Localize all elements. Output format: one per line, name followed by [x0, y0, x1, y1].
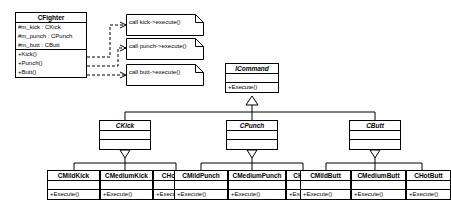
class-cbutt-operations	[350, 140, 400, 149]
class-cfighter-attribute: #m_kick : CKick	[16, 23, 86, 32]
class-icommand-operation: +Execute()	[226, 83, 278, 92]
class-cmediumpunch-attributes	[229, 181, 285, 190]
class-cpunch[interactable]: CPunch	[226, 120, 278, 150]
class-cmildbutt[interactable]: CMildButt +Execute()	[300, 170, 351, 200]
class-chotbutt-operation: +Execute()	[407, 190, 450, 199]
class-chotbutt-name: CHotButt	[407, 171, 450, 181]
class-cmediumpunch-operation: +Execute()	[229, 190, 285, 199]
class-cmediumbutt-name: CMediumButt	[352, 171, 405, 181]
class-cmildbutt-attributes	[301, 181, 350, 190]
class-cpunch-attributes	[227, 131, 277, 140]
class-cfighter-attribute: #m_punch : CPunch	[16, 32, 86, 41]
note-call-kick-text: call kick->execute()	[126, 14, 204, 27]
class-cmildkick[interactable]: CMildKick +Execute()	[47, 170, 100, 200]
uml-class-diagram: CFighter #m_kick : CKick #m_punch : CPun…	[0, 0, 451, 211]
class-cfighter-operation: +Kick()	[16, 50, 86, 59]
class-cmildbutt-operation: +Execute()	[301, 190, 350, 199]
class-icommand[interactable]: ICommand +Execute()	[225, 63, 279, 93]
class-chotbutt-attributes	[407, 181, 450, 190]
generalization-punch	[201, 150, 303, 170]
class-icommand-attributes	[226, 74, 278, 83]
class-cbutt[interactable]: CButt	[349, 120, 401, 150]
class-ckick[interactable]: CKick	[99, 120, 151, 150]
generalization-butt	[326, 150, 422, 170]
class-cfighter-name: CFighter	[16, 13, 86, 23]
class-cmediumkick-operation: +Execute()	[101, 190, 152, 199]
dependency-kick	[87, 25, 126, 57]
class-cmediumpunch[interactable]: CMediumPunch +Execute()	[228, 170, 286, 200]
class-ckick-attributes	[100, 131, 150, 140]
class-cbutt-name: CButt	[350, 121, 400, 131]
class-cmildpunch[interactable]: CMildPunch +Execute()	[174, 170, 228, 200]
class-cmediumbutt-attributes	[352, 181, 405, 190]
class-chotbutt[interactable]: CHotButt +Execute()	[406, 170, 451, 200]
class-cmediumkick-name: CMediumKick	[101, 171, 152, 181]
class-cmildkick-operation: +Execute()	[48, 190, 99, 199]
class-cbutt-attributes	[350, 131, 400, 140]
class-ckick-operations	[100, 140, 150, 149]
class-cpunch-name: CPunch	[227, 121, 277, 131]
class-cmediumbutt-operation: +Execute()	[352, 190, 405, 199]
class-cfighter-operation: +Butt()	[16, 68, 86, 77]
class-cmediumkick[interactable]: CMediumKick +Execute()	[100, 170, 153, 200]
class-cmildpunch-name: CMildPunch	[175, 171, 227, 181]
class-cpunch-operations	[227, 140, 277, 149]
class-cfighter-operation: +Punch()	[16, 59, 86, 68]
class-cmildbutt-name: CMildButt	[301, 171, 350, 181]
generalization-command	[125, 96, 375, 120]
class-cmildpunch-operation: +Execute()	[175, 190, 227, 199]
note-call-butt-text: call butt->execute()	[126, 64, 204, 77]
class-ckick-name: CKick	[100, 121, 150, 131]
class-cmediumpunch-name: CMediumPunch	[229, 171, 285, 181]
class-cmildpunch-attributes	[175, 181, 227, 190]
class-cmediumkick-attributes	[101, 181, 152, 190]
note-call-butt[interactable]: call butt->execute()	[126, 64, 204, 86]
class-cmediumbutt[interactable]: CMediumButt +Execute()	[351, 170, 406, 200]
generalization-kick	[74, 150, 176, 170]
class-cfighter[interactable]: CFighter #m_kick : CKick #m_punch : CPun…	[15, 12, 87, 78]
class-cmildkick-name: CMildKick	[48, 171, 99, 181]
note-call-punch[interactable]: call punch->execute()	[126, 38, 204, 60]
class-cfighter-attribute: #m_butt : CButt	[16, 41, 86, 50]
note-call-punch-text: call punch->execute()	[126, 38, 204, 51]
note-call-kick[interactable]: call kick->execute()	[126, 14, 204, 36]
class-icommand-name: ICommand	[226, 64, 278, 74]
class-cmildkick-attributes	[48, 181, 99, 190]
